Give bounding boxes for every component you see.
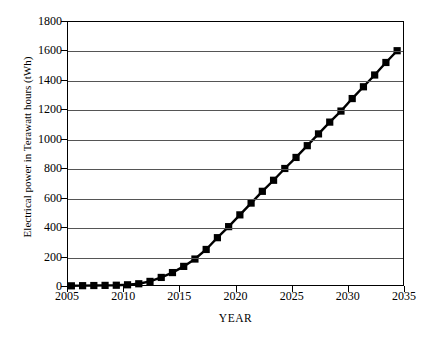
chart-figure: Electrical power in Terawatt hours (tWh)… [0, 0, 421, 339]
data-point-marker [292, 154, 299, 161]
series-layer [68, 22, 405, 287]
data-point-marker [158, 274, 165, 281]
gridline-y-1400 [68, 81, 403, 82]
data-point-marker [382, 59, 389, 66]
data-point-marker [68, 282, 75, 289]
data-point-marker [360, 83, 367, 90]
data-point-marker [113, 282, 120, 289]
data-point-marker [315, 130, 322, 137]
data-point-marker [326, 119, 333, 126]
data-point-marker [259, 188, 266, 195]
data-point-marker [248, 199, 255, 206]
plot-area [67, 21, 404, 286]
data-point-marker [124, 281, 131, 288]
x-tick-label-2015: 2015 [149, 290, 209, 303]
gridline-y-1000 [68, 140, 403, 141]
x-tick-label-2030: 2030 [318, 290, 378, 303]
gridline-y-200 [68, 258, 403, 259]
gridline-y-600 [68, 199, 403, 200]
data-point-marker [270, 177, 277, 184]
gridline-y-800 [68, 169, 403, 170]
gridline-y-1600 [68, 51, 403, 52]
y-tick-mark-0 [61, 286, 67, 287]
x-axis-title: YEAR [67, 312, 404, 324]
data-point-marker [101, 282, 108, 289]
data-point-marker [304, 142, 311, 149]
x-tick-label-2025: 2025 [262, 290, 322, 303]
data-point-marker [191, 255, 198, 262]
data-point-marker [225, 223, 232, 230]
x-tick-label-2010: 2010 [93, 290, 153, 303]
data-point-marker [349, 95, 356, 102]
data-point-marker [180, 263, 187, 270]
gridline-y-1200 [68, 110, 403, 111]
data-point-marker [371, 71, 378, 78]
x-tick-label-2005: 2005 [37, 290, 97, 303]
data-point-marker [169, 269, 176, 276]
data-point-marker [236, 211, 243, 218]
data-point-marker [214, 234, 221, 241]
x-tick-label-2020: 2020 [206, 290, 266, 303]
x-tick-label-2035: 2035 [374, 290, 421, 303]
y-axis-title: Electrical power in Terawatt hours (tWh) [18, 2, 36, 292]
data-point-marker [135, 280, 142, 287]
data-point-marker [203, 246, 210, 253]
gridline-y-400 [68, 228, 403, 229]
data-point-marker [79, 282, 86, 289]
data-point-marker [90, 282, 97, 289]
data-point-marker [146, 278, 153, 285]
